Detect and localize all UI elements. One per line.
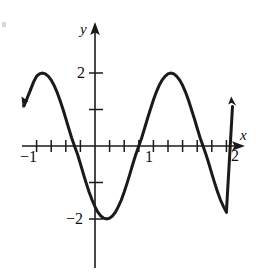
curve-right-arrowhead xyxy=(228,97,236,106)
coordinate-plot xyxy=(0,0,261,276)
curve-left-tail xyxy=(24,90,31,106)
x-tick-label-2: 2 xyxy=(231,148,239,164)
y-axis-label: y xyxy=(80,22,87,37)
y-tick-label--2: −2 xyxy=(66,211,83,227)
x-tick-label--1: −1 xyxy=(20,149,37,165)
y-tick-label-2: 2 xyxy=(77,65,85,81)
graph-figure: −1 1 2 2 −2 y x xyxy=(0,0,261,276)
x-axis-label: x xyxy=(240,128,247,143)
x-tick-label-1: 1 xyxy=(145,149,153,165)
